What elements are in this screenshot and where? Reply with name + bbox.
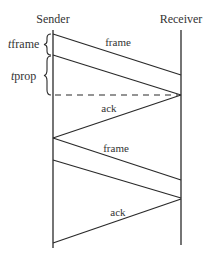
ack1-label: ack	[101, 102, 117, 114]
frame1-label: frame	[105, 36, 131, 48]
stop-and-wait-diagram: Sender Receiver frame ack frame ack tfra…	[0, 0, 209, 264]
frame2-trailing-edge	[53, 160, 181, 198]
tframe-brace	[44, 34, 51, 55]
sender-label: Sender	[36, 12, 69, 26]
frame2-label: frame	[103, 142, 129, 154]
tframe-label: tframe	[8, 37, 39, 51]
frame1-trailing-edge	[53, 55, 181, 95]
receiver-label: Receiver	[160, 12, 203, 26]
tprop-brace	[44, 56, 51, 95]
ack2-label: ack	[110, 206, 126, 218]
tprop-label: tprop	[11, 69, 36, 83]
ack1-line	[53, 95, 181, 138]
diagram-svg: Sender Receiver frame ack frame ack tfra…	[0, 0, 209, 264]
